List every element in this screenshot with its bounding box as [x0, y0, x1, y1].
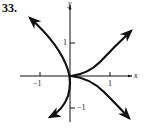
- x-tick-label-1: 1: [108, 80, 112, 88]
- curve-cusp-upper: [71, 31, 131, 76]
- x-tick-label-neg1: −1: [33, 80, 42, 88]
- y-axis-label: y: [68, 0, 72, 8]
- x-axis-label: x: [134, 72, 138, 80]
- plot-canvas: [0, 0, 148, 129]
- y-tick-label-neg1: −1: [77, 104, 86, 112]
- figure: 33. y x −1 1 1 −1: [0, 0, 148, 129]
- y-tick-label-1: 1: [63, 39, 67, 47]
- curve-left-branch: [30, 18, 70, 117]
